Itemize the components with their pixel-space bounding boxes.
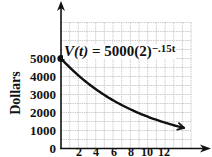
function-lhs: V(t) [64,43,88,59]
x-tick-label: 8 [128,146,134,157]
x-tick-label: 12 [158,146,170,157]
y-tick-label: 5000 [0,52,56,65]
decay-curve [61,59,184,128]
function-label: V(t) = 5000(2)−.15t [63,44,176,59]
function-exponent: −.15t [152,42,176,54]
x-tick-label: 10 [141,146,153,157]
y-axis [57,1,65,149]
y-tick-label: 0 [0,142,56,155]
x-axis [60,145,211,153]
x-tick-label: 4 [93,146,99,157]
x-tick-label: 2 [76,146,82,157]
function-base: 5000(2) [104,43,152,59]
y-tick-label: 3000 [0,88,56,101]
x-tick-label: 6 [111,146,117,157]
y-tick-label: 2000 [0,106,56,119]
y-tick-label: 1000 [0,124,56,137]
y-tick-label: 4000 [0,70,56,83]
function-equals: = [88,43,104,59]
